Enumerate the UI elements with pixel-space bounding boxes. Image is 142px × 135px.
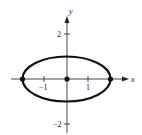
x-axis-label: x	[130, 75, 135, 84]
ellipse-graph: y x −1 1 2 −2	[0, 0, 142, 135]
left-vertex-point	[20, 76, 25, 81]
x-tick-label-1: 1	[86, 83, 90, 92]
x-tick-label-neg1: −1	[39, 83, 48, 92]
y-axis-label: y	[68, 7, 73, 16]
y-tick-label-neg2: −2	[53, 120, 62, 129]
x-axis-arrow-icon	[122, 77, 129, 82]
y-tick-label-2: 2	[57, 30, 61, 39]
y-axis-arrow-icon	[65, 16, 70, 23]
center-point	[64, 76, 69, 81]
right-vertex-point	[108, 76, 113, 81]
